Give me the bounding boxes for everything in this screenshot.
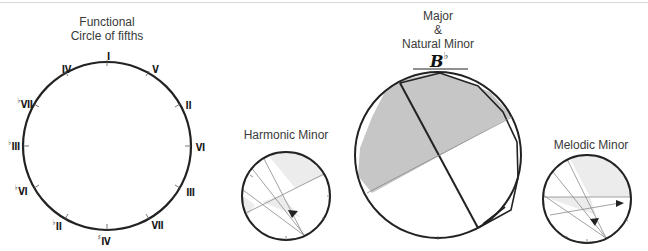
major-natural-minor-title: Major & Natural Minor — [383, 9, 493, 51]
degree-label-VII: VII — [151, 217, 164, 232]
degree-label-flat-II: ♭II — [53, 218, 62, 233]
major-title-line2: & — [383, 23, 493, 37]
major-title-line3: Natural Minor — [383, 37, 493, 51]
harmonic-minor-title: Harmonic Minor — [236, 128, 336, 142]
key-label-b-flat: B♭ — [430, 50, 448, 71]
functional-title-line1: Functional — [62, 15, 152, 29]
functional-circle — [23, 60, 191, 230]
degree-label-sharp-IV: ♯IV — [98, 233, 110, 248]
functional-title-line2: Circle of fifths — [62, 29, 152, 43]
degree-label-VI: VI — [195, 139, 205, 154]
major-title-line1: Major — [383, 9, 493, 23]
degree-label-flat-VII: ♭VII — [17, 96, 32, 111]
melodic-minor-circle — [543, 155, 632, 243]
degree-label-V: V — [151, 61, 158, 76]
degree-label-III: III — [185, 184, 194, 199]
degree-label-flat-III: ♭III — [8, 138, 20, 153]
degree-label-IV: IV — [61, 61, 71, 76]
functional-title: Functional Circle of fifths — [62, 15, 152, 43]
major-natural-minor-circle — [355, 69, 521, 240]
degree-label-flat-VI: ♭VI — [15, 183, 27, 198]
melodic-minor-title: Melodic Minor — [541, 138, 641, 152]
degree-label-II: II — [185, 97, 191, 112]
degree-label-I: I — [106, 48, 110, 63]
harmonic-minor-circle — [242, 150, 330, 240]
